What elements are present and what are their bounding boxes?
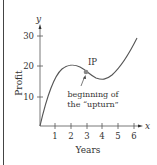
y-tick-label-30: 30 (23, 31, 34, 41)
ip-label: IP (88, 57, 97, 67)
y-tick-label-20: 20 (23, 61, 34, 71)
x-tick-label-2: 2 (68, 131, 73, 141)
x-tick-label-3: 3 (84, 131, 89, 141)
y-tick-label-10: 10 (23, 92, 34, 102)
y-axis-variable: y (35, 14, 42, 24)
annotation-line-2: the “upturn” (67, 100, 118, 109)
y-axis-label: Profit (14, 70, 24, 96)
profit-curve (40, 38, 137, 126)
x-tick-label-1: 1 (52, 131, 57, 141)
x-tick-label-6: 6 (131, 131, 136, 141)
annotation-arrowhead-icon (83, 75, 86, 79)
profit-chart: y x 30 20 10 1 2 3 4 5 6 Years Profit IP… (0, 0, 157, 165)
y-axis-arrow-icon (39, 24, 42, 29)
x-tick-label-4: 4 (99, 131, 104, 141)
x-tick-label-5: 5 (115, 131, 120, 141)
annotation-line-1: beginning of (68, 90, 120, 99)
x-axis-variable: x (145, 121, 150, 131)
x-axis-arrow-icon (138, 125, 143, 128)
x-axis-label: Years (75, 145, 101, 155)
inflection-point-dot (84, 70, 89, 75)
